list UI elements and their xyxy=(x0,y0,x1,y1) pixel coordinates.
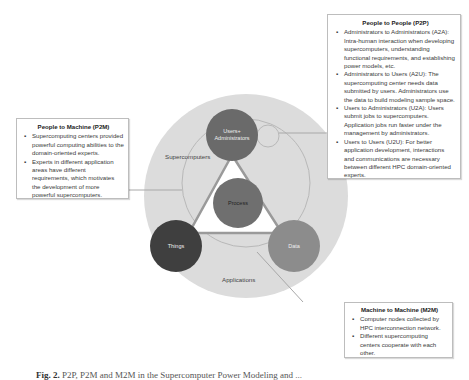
list-item: Users to Administrators (U2A): Users sub… xyxy=(344,104,456,138)
callout-title: Machine to Machine (M2M) xyxy=(351,306,448,314)
node-label-data: Data xyxy=(269,243,319,250)
supercomputers-label: Supercomputers xyxy=(165,153,210,160)
callout-m2m: Machine to Machine (M2M) Computer nodes … xyxy=(344,302,453,358)
node-label-process: Process xyxy=(213,200,263,207)
list-item: Administrators to Users (A2U): The super… xyxy=(344,70,456,104)
callout-list: Supercomputing centers provided powerful… xyxy=(23,132,124,199)
node-label-line1: Users+ xyxy=(223,128,241,134)
figure-caption: Fig. 2. P2P, P2M and M2M in the Supercom… xyxy=(36,370,302,380)
list-item: Computer nodes collected by HPC intercon… xyxy=(360,315,448,332)
callout-p2m: People to Machine (P2M) Supercomputing c… xyxy=(16,118,129,199)
node-label-things: Things xyxy=(151,243,201,250)
callout-title: People to Machine (P2M) xyxy=(23,123,124,131)
node-label-users-administrators: Users+ Administrators xyxy=(206,128,258,142)
applications-label: Applications xyxy=(222,276,255,283)
list-item: Administrators to Administrators (A2A): … xyxy=(344,28,456,70)
list-item: Experts in different application areas h… xyxy=(32,158,124,200)
list-item: Users to Users (U2U): For better applica… xyxy=(344,138,456,180)
callout-list: Administrators to Administrators (A2A): … xyxy=(335,28,456,179)
caption-label: Fig. 2. xyxy=(36,370,60,380)
list-item: Supercomputing centers provided powerful… xyxy=(32,132,124,157)
node-label-line2: Administrators xyxy=(214,135,249,141)
list-item: Different supercomputing centers coopera… xyxy=(360,332,448,357)
callout-title: People to People (P2P) xyxy=(335,19,456,27)
callout-p2p: People to People (P2P) Administrators to… xyxy=(327,14,461,179)
caption-text: P2P, P2M and M2M in the Supercomputer Po… xyxy=(62,370,302,380)
callout-list: Computer nodes collected by HPC intercon… xyxy=(351,315,448,357)
